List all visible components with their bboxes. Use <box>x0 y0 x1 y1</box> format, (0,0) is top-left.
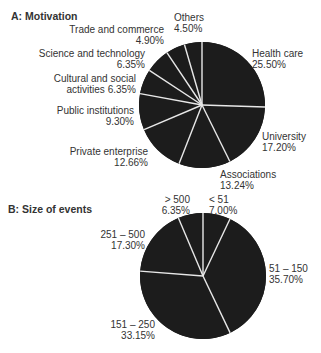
label-251-500: 251 – 50017.30% <box>90 229 145 251</box>
label-private-enterprise: Private enterprise12.66% <box>40 146 148 168</box>
label-public-institutions: Public institutions9.30% <box>30 105 134 127</box>
label-associations: Associations13.24% <box>220 169 276 191</box>
label-51-150: 51 – 15035.70% <box>269 263 308 285</box>
label-trade-and-commerce: Trade and commerce4.90% <box>68 24 164 46</box>
label-health-care: Health care25.50% <box>252 48 303 70</box>
label-under-51: < 517.00% <box>209 194 237 216</box>
pie-chart-size-of-events <box>140 213 266 339</box>
chart-title-motivation: A: Motivation <box>11 10 78 22</box>
label-science-and-technology: Science and technology6.35% <box>20 48 145 70</box>
label-151-250: 151 – 25033.15% <box>100 319 155 341</box>
label-others: Others4.50% <box>174 12 204 34</box>
label-cultural-and-social: Cultural and socialactivities 6.35% <box>30 73 136 95</box>
chart-title-size-of-events: B: Size of events <box>8 203 92 215</box>
pie-chart-motivation <box>139 42 265 168</box>
label-university: University17.20% <box>262 131 306 153</box>
label-over-500: > 5006.35% <box>150 194 190 216</box>
